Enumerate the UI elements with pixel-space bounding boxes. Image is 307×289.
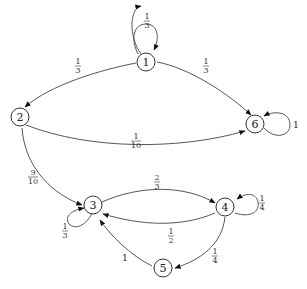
edge-4-4-loop	[235, 194, 258, 214]
node-5: 5	[154, 259, 172, 277]
label-4-3: 1 2	[168, 227, 174, 245]
svg-text:4: 4	[212, 256, 217, 265]
svg-text:4: 4	[259, 203, 264, 212]
markov-chain-diagram: 1 3 1 3 1 3 1 10 9 10 1 2 3 1 3 1 4 1	[0, 0, 307, 289]
label-3-3: 1 3	[62, 222, 68, 240]
svg-text:1: 1	[168, 227, 173, 236]
edge-4-3	[103, 213, 215, 223]
svg-text:3: 3	[62, 231, 67, 240]
svg-text:1: 1	[203, 57, 208, 66]
svg-text:1: 1	[144, 12, 149, 21]
edge-3-4	[102, 189, 215, 203]
label-3-4: 2 3	[154, 173, 160, 191]
svg-text:1: 1	[212, 247, 217, 256]
svg-text:1: 1	[133, 132, 138, 141]
node-2: 2	[11, 108, 29, 126]
svg-text:2: 2	[17, 111, 24, 124]
svg-text:3: 3	[90, 199, 97, 212]
edge-1-1	[132, 6, 141, 54]
label-5-3: 1	[122, 252, 128, 263]
svg-text:5: 5	[160, 262, 167, 275]
node-1: 1	[137, 53, 155, 71]
label-4-4: 1 4	[259, 194, 265, 212]
svg-text:4: 4	[222, 201, 229, 214]
label-1-1: 1 3	[144, 12, 150, 30]
svg-text:6: 6	[252, 118, 259, 131]
edge-6-6-loop	[264, 113, 290, 136]
svg-text:10: 10	[28, 177, 38, 186]
label-4-5: 1 4	[212, 247, 218, 265]
node-4: 4	[216, 198, 234, 216]
label-1-6: 1 3	[203, 57, 209, 75]
node-3: 3	[84, 196, 102, 214]
svg-text:10: 10	[131, 141, 141, 150]
svg-text:9: 9	[30, 168, 35, 177]
svg-text:1: 1	[75, 57, 80, 66]
svg-text:1: 1	[62, 222, 67, 231]
svg-text:3: 3	[203, 66, 208, 75]
svg-text:1: 1	[259, 194, 264, 203]
label-6-6: 1	[293, 119, 299, 130]
svg-text:2: 2	[168, 236, 173, 245]
label-1-2: 1 3	[75, 57, 81, 75]
svg-text:2: 2	[154, 173, 159, 182]
svg-text:3: 3	[144, 21, 149, 30]
svg-text:3: 3	[75, 66, 80, 75]
svg-text:3: 3	[154, 182, 159, 191]
label-2-6: 1 10	[131, 132, 141, 150]
node-6: 6	[246, 115, 264, 133]
svg-text:1: 1	[143, 56, 150, 69]
edge-2-3	[22, 128, 82, 205]
